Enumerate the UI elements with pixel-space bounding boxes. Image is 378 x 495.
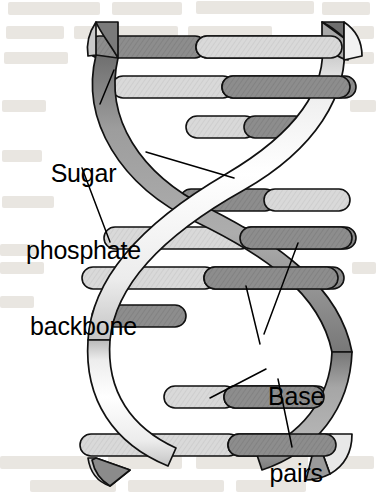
label-base-line-2: pairs: [268, 461, 324, 487]
label-sugar-line-2: phosphate: [26, 238, 141, 264]
leader-basepair-2: [246, 286, 260, 344]
label-sugar-phosphate-backbone: Sugar phosphate backbone: [26, 110, 141, 391]
label-base-pairs: Base pairs: [268, 333, 324, 495]
label-sugar-line-3: backbone: [26, 314, 141, 340]
dna-double-helix-figure: Sugar phosphate backbone Base pairs: [0, 0, 378, 495]
label-base-line-1: Base: [268, 384, 324, 410]
label-sugar-line-1: Sugar: [26, 161, 141, 187]
